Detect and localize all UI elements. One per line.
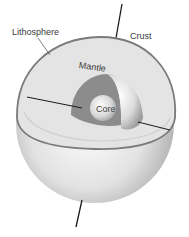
label-crust: Crust (130, 31, 152, 41)
earth-cutaway-diagram: Lithosphere Crust Mantle Core (0, 0, 189, 237)
label-lithosphere: Lithosphere (12, 27, 59, 37)
rotation-axis-top (116, 4, 122, 38)
rotation-axis-bottom (76, 200, 82, 227)
lithosphere-leader-line (38, 38, 50, 55)
label-core: Core (96, 104, 116, 114)
